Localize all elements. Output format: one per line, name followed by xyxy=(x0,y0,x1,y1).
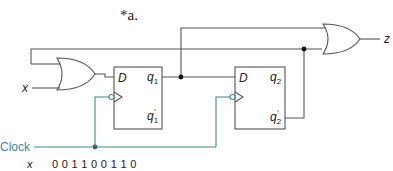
sequence-label: x xyxy=(26,158,33,170)
q2n-wire xyxy=(285,49,304,118)
ff2-clock-bubble xyxy=(230,95,235,100)
clock-label: Clock xyxy=(0,140,31,154)
sequence-values: 0 0 1 1 0 0 1 1 0 xyxy=(52,158,137,170)
or-gate-1 xyxy=(57,58,95,90)
junction-dot-q2n xyxy=(302,47,307,52)
ff2-q-label: q2 xyxy=(270,70,282,86)
ff1-clock-bubble xyxy=(109,95,114,100)
ff1-qn-label: q1′ xyxy=(147,107,159,125)
x-input-label: x xyxy=(21,81,29,95)
clock-to-ff1-wire xyxy=(95,97,109,147)
ff1-clock-triangle xyxy=(114,92,122,102)
ff1-q-label: q1 xyxy=(147,70,159,86)
circuit-diagram: *a. x C xyxy=(0,0,393,171)
clock-to-ff2-wire xyxy=(216,97,230,147)
ff2-qn-label: q2′ xyxy=(270,108,282,126)
problem-title: *a. xyxy=(120,7,138,23)
ff2-clock-triangle xyxy=(235,92,243,102)
z-output-label: z xyxy=(383,32,390,46)
ff1-d-label: D xyxy=(118,71,127,85)
clock-junction-dot xyxy=(93,145,98,150)
or1-to-d1-wire xyxy=(95,74,114,77)
junction-dot-q1 xyxy=(179,75,184,80)
feedback-wire-q2n xyxy=(31,49,322,64)
or-gate-2 xyxy=(323,24,360,54)
ff2-d-label: D xyxy=(239,71,248,85)
